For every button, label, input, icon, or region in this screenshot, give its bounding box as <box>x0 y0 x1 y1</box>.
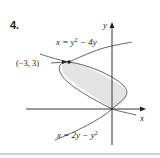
equation-lower-lhs: x = 2y − y <box>56 130 95 140</box>
equation-upper-lhs: x = y <box>55 37 75 47</box>
y-axis-arrow-icon <box>110 22 115 28</box>
equation-upper-rhs: − 4y <box>78 37 97 47</box>
x-axis-arrow-icon <box>140 107 146 112</box>
equation-label-upper: x = y2 − 4y <box>55 37 97 48</box>
equation-lower-sup: 2 <box>95 130 98 136</box>
y-axis-label: y <box>102 20 107 30</box>
point-label: (−3, 3) <box>16 58 39 68</box>
equation-label-lower: x = 2y − y2 <box>56 130 98 141</box>
diagram-canvas: x y (−3, 3) x = y2 − 4y x = 2y − y2 <box>0 0 160 158</box>
x-axis-label: x <box>139 113 144 123</box>
intersection-point <box>67 60 71 64</box>
bottom-divider <box>0 153 160 155</box>
